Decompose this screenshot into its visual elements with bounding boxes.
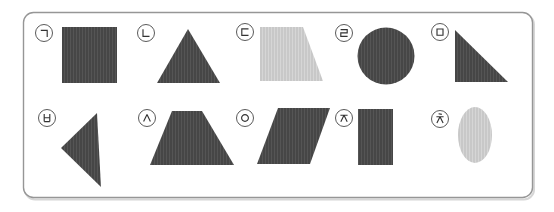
shapes-diagram [0, 0, 554, 212]
label-ring-giyeok [36, 25, 53, 42]
label-ring-mieum [432, 24, 449, 41]
shape-circle [358, 28, 415, 85]
label-ring-siot [139, 110, 156, 127]
label-ring-jieut [336, 110, 353, 127]
label-ring-digeut [237, 24, 254, 41]
label-ring-chieut [432, 111, 449, 128]
shape-ellipse [458, 107, 492, 163]
figure-canvas [0, 0, 554, 212]
shape-square [62, 27, 117, 83]
label-ring-ieung [237, 110, 254, 127]
shape-rectangle [358, 109, 393, 165]
label-ring-nieun [138, 25, 155, 42]
